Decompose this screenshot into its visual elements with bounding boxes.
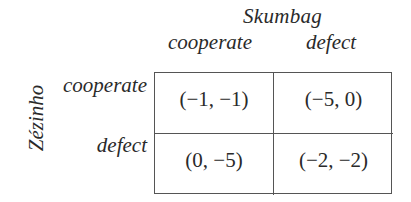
payoff-cell-defect-defect: (−2, −2)	[274, 134, 393, 195]
column-player-label: Skumbag	[243, 4, 322, 29]
payoff-cell-cooperate-defect: (−5, 0)	[274, 73, 393, 134]
payoff-cell-cooperate-cooperate: (−1, −1)	[155, 73, 274, 134]
row-strategy-defect: defect	[47, 133, 147, 158]
payoff-cell-defect-cooperate: (0, −5)	[155, 134, 274, 195]
column-strategy-defect: defect	[306, 30, 356, 55]
row-strategy-cooperate: cooperate	[47, 73, 147, 98]
payoff-matrix: (−1, −1) (−5, 0) (0, −5) (−2, −2)	[154, 72, 392, 194]
column-strategy-cooperate: cooperate	[168, 30, 252, 55]
row-player-label: Zézinho	[24, 85, 49, 152]
